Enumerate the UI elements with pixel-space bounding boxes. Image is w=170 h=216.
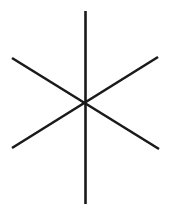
figure-canvas	[0, 0, 170, 216]
asterisk-figure	[0, 0, 170, 216]
